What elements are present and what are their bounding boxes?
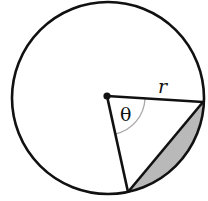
center-point [103,92,110,99]
angle-label: θ [120,103,131,125]
radius-label: r [158,75,169,97]
circle-segment-diagram: r θ [0,0,208,201]
radius-line-a [107,96,203,102]
